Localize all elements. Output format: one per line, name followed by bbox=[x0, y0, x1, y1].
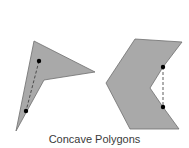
right-polygon-group bbox=[106, 39, 182, 129]
concave-polygons-diagram bbox=[0, 0, 189, 148]
left-vertex-dot-upper bbox=[37, 59, 41, 63]
figure-caption: Concave Polygons bbox=[0, 133, 189, 146]
right-vertex-dot-lower bbox=[161, 105, 165, 109]
arrowhead-concave-polygon bbox=[16, 41, 95, 131]
chevron-concave-polygon bbox=[106, 39, 182, 129]
left-polygon-group bbox=[16, 41, 95, 131]
right-vertex-dot-upper bbox=[161, 65, 165, 69]
left-vertex-dot-lower bbox=[24, 109, 28, 113]
